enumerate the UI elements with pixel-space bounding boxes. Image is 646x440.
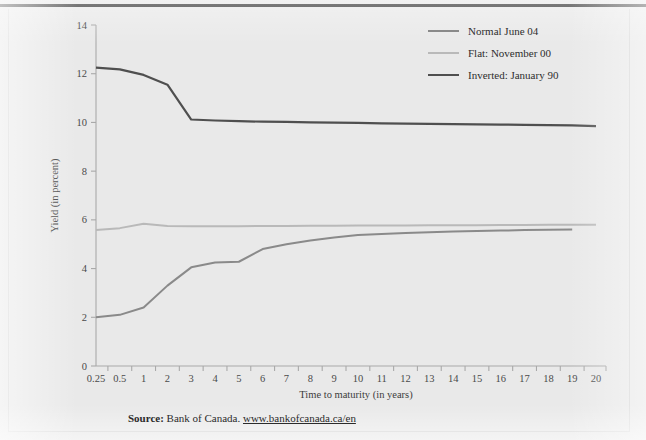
x-tick-label: 3 [189,373,194,384]
x-tick-label: 11 [377,373,387,384]
y-tick-label: 2 [82,312,87,323]
legend-label-flat: Flat: November 00 [468,47,551,59]
y-tick-label: 6 [82,214,87,225]
x-tick-label: 5 [236,373,241,384]
legend-item-flat: Flat: November 00 [428,43,618,62]
x-tick-label: 19 [567,373,578,384]
chart-figure: 024681012140.250.51234567891011121314151… [0,0,646,440]
legend-swatch-inverted [428,74,459,76]
chart-legend: Normal June 04 Flat: November 00 Inverte… [428,21,618,87]
x-tick-label: 12 [400,373,411,384]
x-tick-label: 14 [448,373,459,384]
x-tick-label: 10 [353,373,364,384]
source-line: Source: Bank of Canada. www.bankofcanada… [128,412,356,424]
x-tick-label: 15 [472,373,483,384]
y-axis-title: Yield (in percent) [49,158,61,233]
x-tick-label: 9 [331,373,336,384]
x-tick-label: 13 [424,373,435,384]
y-tick-label: 4 [82,263,88,274]
x-tick-label: 6 [260,373,265,384]
series-group [96,68,596,318]
x-tick-label: 1 [141,373,146,384]
legend-item-inverted: Inverted: January 90 [428,65,618,84]
legend-item-normal: Normal June 04 [428,21,618,40]
x-tick-label: 2 [165,373,170,384]
x-tick-label: 8 [308,373,313,384]
x-tick-label: 4 [212,373,218,384]
x-tick-label: 16 [496,373,507,384]
y-tick-label: 12 [77,68,88,79]
source-url[interactable]: www.bankofcanada.ca/en [243,412,356,424]
legend-swatch-normal [428,30,459,32]
y-tick-label: 0 [82,361,87,372]
legend-label-normal: Normal June 04 [468,25,538,37]
x-tick-label: 17 [519,373,530,384]
source-label: Source: [128,412,164,424]
y-tick-label: 8 [82,166,87,177]
x-tick-label: 0.5 [113,373,126,384]
source-organization: Bank of Canada. [167,412,241,424]
x-tick-label: 7 [284,373,289,384]
series-line-normal-june-04 [96,230,572,318]
x-axis-title: Time to maturity (in years) [299,389,413,401]
x-tick-label: 0.25 [87,373,105,384]
y-tick-label: 10 [77,117,88,128]
legend-swatch-flat [428,52,459,54]
x-tick-label: 20 [591,373,602,384]
series-line-flat-november-00 [96,224,596,230]
legend-label-inverted: Inverted: January 90 [468,69,558,81]
x-tick-label: 18 [543,373,554,384]
y-tick-label: 14 [77,20,88,31]
